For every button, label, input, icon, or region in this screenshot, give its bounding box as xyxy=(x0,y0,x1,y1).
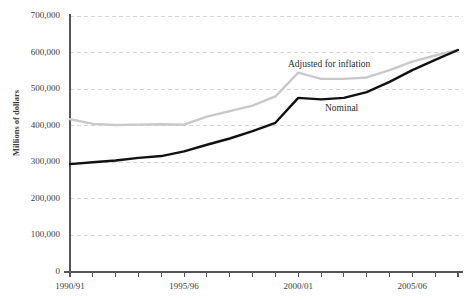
x-tick-label: 2005/06 xyxy=(377,281,447,291)
chart-container: Millions of dollars 0100,000200,000300,0… xyxy=(0,0,465,300)
axis-lines xyxy=(64,14,463,272)
series-label-nominal: Nominal xyxy=(325,103,358,113)
plot-area xyxy=(0,0,465,300)
x-tick-label: 2000/01 xyxy=(263,281,333,291)
x-tick-label: 1995/96 xyxy=(149,281,219,291)
x-axis-ticks xyxy=(70,272,458,277)
x-tick-label: 1990/91 xyxy=(35,281,105,291)
series-label-adjusted-for-inflation: Adjusted for inflation xyxy=(288,59,370,69)
series-lines xyxy=(70,50,458,164)
